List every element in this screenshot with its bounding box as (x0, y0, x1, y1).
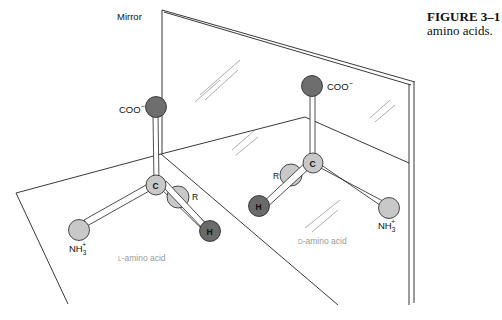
mirror-label: Mirror (117, 11, 142, 22)
l-carbon-label: C (153, 181, 159, 191)
amino-atom (69, 220, 90, 241)
d-carbon-label: C (310, 159, 316, 169)
l-carboxyl-label: COO− (119, 103, 145, 115)
carboxyl-atom (302, 76, 323, 97)
d-amino-acid-label: D-amino acid (298, 236, 347, 246)
mirror-glints (195, 60, 395, 232)
amino-atom (379, 198, 400, 219)
l-hydrogen-label: H (207, 227, 213, 237)
l-amino-acid-label: L-amino acid (118, 253, 166, 263)
d-amino-acid-model (249, 76, 400, 219)
d-amino-label: NH3+ (378, 218, 396, 233)
l-amino-acid-model (69, 97, 221, 242)
chirality-diagram: Mirror COO− C R H NH3+ L-amino acid COO−… (0, 0, 502, 320)
l-amino-label: NH3+ (69, 241, 87, 256)
carboxyl-atom (146, 97, 167, 118)
d-hydrogen-label: H (256, 202, 262, 212)
reflected-floor (161, 117, 409, 163)
d-r-group-label: R (273, 171, 279, 181)
d-carboxyl-label: COO− (327, 80, 353, 92)
l-r-group-label: R (192, 192, 198, 202)
mirror-pane (162, 10, 415, 305)
